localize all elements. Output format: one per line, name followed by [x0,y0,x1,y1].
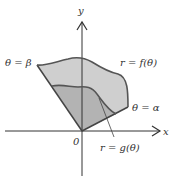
polar-region-diagram: y x 0 θ = β θ = α r = f(θ) r = g(θ) [0,0,175,180]
outer-curve-label: r = f(θ) [120,57,157,68]
y-axis-label: y [77,5,84,16]
origin-label: 0 [73,136,80,147]
theta-alpha-label: θ = α [132,102,160,113]
x-axis-label: x [163,126,169,137]
theta-beta-label: θ = β [5,57,32,68]
inner-curve-label: r = g(θ) [100,142,140,153]
